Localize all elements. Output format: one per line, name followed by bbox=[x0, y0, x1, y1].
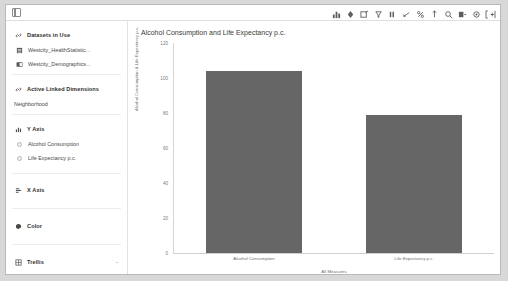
y-axis-tick-label: 100 bbox=[160, 76, 168, 81]
application-window: Datasets in Use Westcity_HealthStatistic… bbox=[5, 4, 501, 275]
percent-icon[interactable] bbox=[414, 8, 426, 20]
chart-title: Alcohol Consumption and Life Expectancy … bbox=[141, 29, 285, 36]
zoom-icon[interactable] bbox=[442, 8, 454, 20]
y-axis-ticks: 020406080100120 bbox=[145, 43, 171, 253]
chart-area: Alcohol Consumption and Life Expectancy … bbox=[129, 21, 500, 274]
divider bbox=[12, 74, 121, 75]
y-axis-tick-label: 40 bbox=[163, 181, 168, 186]
divider bbox=[12, 208, 121, 209]
filter-icon[interactable] bbox=[372, 8, 384, 20]
marking-icon[interactable] bbox=[400, 8, 412, 20]
y-axis-measure-life-expectancy[interactable]: Life Expectancy p.c. bbox=[6, 151, 127, 165]
color-fill-icon[interactable] bbox=[344, 8, 356, 20]
y-axis-tick-label: 120 bbox=[160, 41, 168, 46]
list-icon[interactable] bbox=[386, 8, 398, 20]
chevron-down-icon[interactable]: ⌄ bbox=[115, 258, 119, 264]
sidebar-section-title: Y Axis bbox=[27, 126, 44, 132]
dot-icon bbox=[15, 140, 23, 148]
divider bbox=[12, 244, 121, 245]
table-icon bbox=[15, 46, 23, 54]
sidebar-section-title: Active Linked Dimensions bbox=[27, 86, 99, 92]
edit-icon[interactable] bbox=[358, 8, 370, 20]
bar[interactable] bbox=[366, 115, 462, 253]
link-icon bbox=[14, 31, 22, 39]
measure-label: Alcohol Consumption bbox=[28, 141, 79, 147]
sidebar: Datasets in Use Westcity_HealthStatistic… bbox=[6, 21, 128, 275]
link-icon bbox=[14, 85, 22, 93]
y-axis-tick-label: 0 bbox=[165, 251, 168, 256]
dataset-westcity-demographics[interactable]: Westcity_Demographics... bbox=[6, 57, 127, 71]
x-axis-tick-label: Alcohol Consumption bbox=[233, 256, 275, 261]
x-axis-line bbox=[173, 253, 494, 254]
y-axis-measure-alcohol-consumption[interactable]: Alcohol Consumption bbox=[6, 137, 127, 151]
sidebar-section-color[interactable]: Color bbox=[6, 218, 127, 234]
dataset-westcity-healthstatistics[interactable]: Westcity_HealthStatistic... bbox=[6, 43, 127, 57]
sidebar-section-x-axis[interactable]: X Axis bbox=[6, 182, 127, 198]
dimension-label: Neighborhood bbox=[14, 101, 48, 107]
chart-type-icon[interactable] bbox=[330, 8, 342, 20]
settings-icon[interactable] bbox=[470, 8, 482, 20]
divider bbox=[12, 173, 121, 174]
sidebar-section-datasets-in-use[interactable]: Datasets in Use bbox=[6, 27, 127, 43]
panel-toggle-icon[interactable] bbox=[12, 8, 21, 17]
measure-label: Life Expectancy p.c. bbox=[28, 155, 76, 161]
bar-chart-icon bbox=[14, 125, 22, 133]
sidebar-section-title: Trellis bbox=[27, 259, 44, 265]
plot-wrapper: Alcohol Consumption & Life Expectancy p.… bbox=[129, 43, 494, 274]
annotation-icon[interactable] bbox=[428, 8, 440, 20]
titlebar bbox=[6, 5, 500, 21]
axis-icon bbox=[14, 186, 22, 194]
sidebar-section-title: Color bbox=[27, 223, 42, 229]
y-axis-tick-label: 60 bbox=[163, 146, 168, 151]
dimension-neighborhood[interactable]: Neighborhood bbox=[6, 97, 127, 111]
y-axis-tick-label: 80 bbox=[163, 111, 168, 116]
x-axis-tick-label: Life Expectancy p.c. bbox=[394, 256, 433, 261]
table-icon bbox=[15, 60, 23, 68]
sidebar-section-active-linked-dimensions[interactable]: Active Linked Dimensions bbox=[6, 81, 127, 97]
x-axis-title: All Measures bbox=[174, 269, 494, 274]
grid-icon bbox=[14, 258, 22, 266]
dataset-label: Westcity_HealthStatistic... bbox=[28, 47, 90, 53]
divider bbox=[12, 114, 121, 115]
dot-icon bbox=[15, 154, 23, 162]
sidebar-section-trellis[interactable]: Trellis ⌄ bbox=[6, 254, 127, 270]
sidebar-section-title: X Axis bbox=[27, 187, 45, 193]
x-axis-tick-labels: Alcohol ConsumptionLife Expectancy p.c. bbox=[174, 256, 494, 268]
y-axis-tick-label: 20 bbox=[163, 216, 168, 221]
export-icon[interactable] bbox=[456, 8, 468, 20]
plot-canvas bbox=[174, 43, 494, 253]
fullscreen-icon[interactable] bbox=[484, 8, 496, 20]
chart-toolbar bbox=[330, 7, 496, 21]
y-axis-title: Alcohol Consumption & Life Expectancy p.… bbox=[134, 27, 139, 111]
sidebar-section-y-axis[interactable]: Y Axis bbox=[6, 121, 127, 137]
bar[interactable] bbox=[206, 71, 302, 253]
palette-icon bbox=[14, 222, 22, 230]
dataset-label: Westcity_Demographics... bbox=[28, 61, 91, 67]
sidebar-section-title: Datasets in Use bbox=[27, 32, 70, 38]
